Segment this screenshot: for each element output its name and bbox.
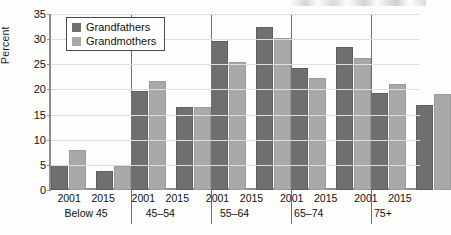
y-axis-tick-25: 25 [24, 59, 46, 70]
y-tickmark-10 [47, 140, 51, 141]
bar [229, 62, 246, 190]
y-tickmark-15 [47, 115, 51, 116]
x-axis-year-2001: 2001 [204, 192, 232, 205]
legend-item: Grandmothers [72, 35, 156, 47]
y-axis-tick-0: 0 [24, 185, 46, 196]
x-axis-year-labels: 20012015 [272, 192, 346, 205]
bar-pair-set [371, 14, 451, 190]
y-axis-tick-15: 15 [24, 109, 46, 120]
gridline-20 [51, 89, 420, 90]
x-axis-category-label: Below 45 [65, 206, 108, 220]
bar-group [371, 14, 451, 190]
legend-label: Grandmothers [86, 35, 156, 47]
legend-color-swatch [72, 37, 81, 46]
y-tickmark-25 [47, 64, 51, 65]
x-axis-year-labels: 20012015 [197, 192, 271, 205]
bar [149, 81, 166, 190]
bar-group [211, 14, 291, 190]
y-axis-tick-20: 20 [24, 84, 46, 95]
bar [194, 107, 211, 190]
bar [371, 93, 388, 190]
x-axis-year-2015: 2015 [312, 192, 340, 205]
y-tickmark-30 [47, 39, 51, 40]
bar [309, 78, 326, 190]
x-axis-group: 2001201575+ [346, 192, 420, 235]
x-axis-category-label: 55–64 [220, 206, 249, 220]
bar-group [291, 14, 371, 190]
gridline-25 [51, 64, 420, 65]
y-axis-tick-5: 5 [24, 159, 46, 170]
bar [176, 107, 193, 190]
legend-color-swatch [72, 23, 81, 32]
gridline-15 [51, 115, 420, 116]
bar-pair-set [211, 14, 291, 190]
x-axis-group: 20012015Below 45 [49, 192, 123, 235]
y-tickmark-20 [47, 89, 51, 90]
bar [291, 68, 308, 190]
legend-item: Grandfathers [72, 21, 156, 33]
x-axis-year-2015: 2015 [386, 192, 414, 205]
y-axis-tick-labels: 05101520253035 [20, 0, 46, 235]
bar [114, 166, 131, 190]
y-tickmark-0 [47, 190, 51, 191]
bar [354, 58, 371, 190]
bar [416, 105, 433, 190]
bar [389, 84, 406, 190]
x-axis-category-label: 45–54 [146, 206, 175, 220]
y-axis-tick-30: 30 [24, 34, 46, 45]
x-axis-group: 2001201565–74 [272, 192, 346, 235]
x-axis-group: 2001201555–64 [197, 192, 271, 235]
chart-legend: GrandfathersGrandmothers [66, 17, 165, 51]
x-axis-year-labels: 20012015 [123, 192, 197, 205]
bar-pair-set [291, 14, 371, 190]
bar [336, 47, 353, 190]
x-axis-year-2001: 2001 [55, 192, 83, 205]
x-axis-year-labels: 20012015 [49, 192, 123, 205]
gridline-10 [51, 140, 420, 141]
y-axis-tick-10: 10 [24, 134, 46, 145]
bar [51, 165, 68, 190]
x-axis-year-2015: 2015 [89, 192, 117, 205]
gridline-5 [51, 165, 420, 166]
x-axis-year-2001: 2001 [352, 192, 380, 205]
x-axis-year-2015: 2015 [238, 192, 266, 205]
bar [96, 171, 113, 190]
x-axis-category-label: 75+ [374, 206, 392, 220]
y-tickmark-5 [47, 165, 51, 166]
x-axis-year-2001: 2001 [129, 192, 157, 205]
x-axis-year-2015: 2015 [163, 192, 191, 205]
bar [434, 94, 451, 190]
x-axis-labels: 20012015Below 452001201545–542001201555–… [49, 192, 420, 235]
x-axis-group: 2001201545–54 [123, 192, 197, 235]
y-tickmark-35 [47, 14, 51, 15]
x-axis-year-2001: 2001 [278, 192, 306, 205]
y-axis-tick-35: 35 [24, 9, 46, 20]
y-axis-title: Percent [0, 0, 11, 64]
x-axis-category-label: 65–74 [294, 206, 323, 220]
legend-label: Grandfathers [86, 21, 150, 33]
bar [69, 150, 86, 190]
x-axis-year-labels: 20012015 [346, 192, 420, 205]
gridline-35 [51, 14, 420, 15]
